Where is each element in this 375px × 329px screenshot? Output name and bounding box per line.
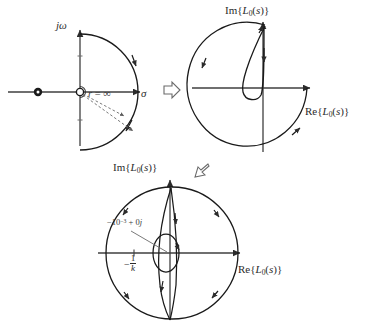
zoom-circle-arrow-ul bbox=[123, 208, 128, 215]
radius-line-upper bbox=[83, 94, 124, 116]
panel-mapped bbox=[187, 22, 310, 152]
zoom-lens-arrow-lower bbox=[161, 281, 163, 292]
contour-arrow-upper bbox=[132, 55, 136, 66]
origin-open-circle bbox=[76, 88, 83, 95]
panel-mapped-zoom bbox=[98, 180, 240, 320]
figure-canvas bbox=[0, 0, 375, 329]
arrow-right-mapping bbox=[164, 82, 180, 98]
panel-s-plane bbox=[8, 30, 140, 150]
critical-point-leader bbox=[131, 231, 167, 252]
zoom-lens-right-branch bbox=[170, 188, 177, 320]
zoom-lens-left-branch bbox=[158, 188, 171, 320]
mapped-large-arc bbox=[187, 22, 307, 146]
arrow-left-mapping bbox=[195, 164, 209, 177]
nyquist-figure: jω σ r = ∞ Im{L0(s)} Re{L0(s)} Im{L0(s)}… bbox=[0, 0, 375, 329]
open-loop-pole-inner bbox=[37, 91, 40, 94]
mapped-arc-arrow-bottom bbox=[292, 128, 300, 135]
zoom-circle-arrow-lr bbox=[212, 291, 218, 298]
radius-line-lower bbox=[83, 95, 133, 131]
zoom-circle-arrow-ll bbox=[124, 292, 129, 299]
mapped-arc-arrow-left bbox=[202, 58, 206, 68]
zoom-circle-arrow-ur bbox=[214, 210, 219, 217]
